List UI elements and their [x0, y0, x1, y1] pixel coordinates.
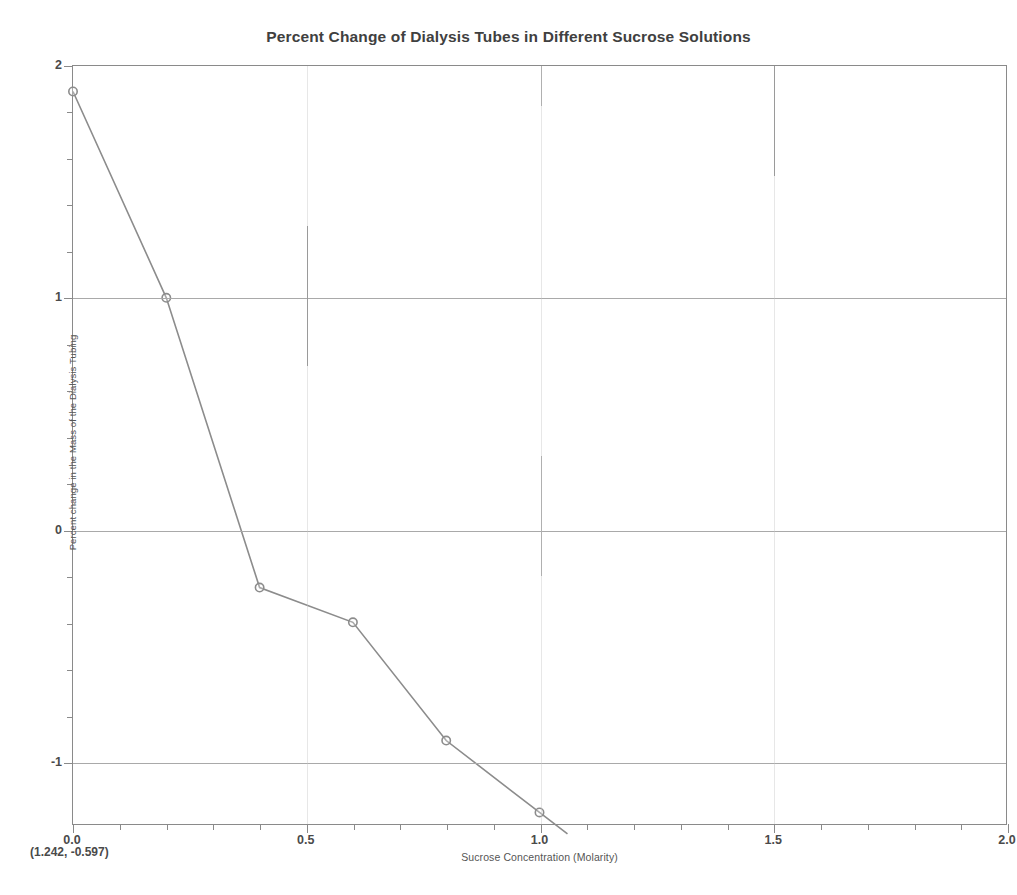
- x-axis-tick-minor: [354, 824, 355, 830]
- x-axis-tick-minor: [260, 824, 261, 830]
- x-axis-tick-minor: [915, 824, 916, 830]
- x-axis-tick-label: 1.0: [531, 833, 548, 847]
- x-axis-tick: [1008, 824, 1009, 833]
- y-axis-tick-label: 1: [40, 290, 62, 304]
- y-axis-tick-label: 0: [40, 523, 62, 537]
- x-axis-tick-minor: [213, 824, 214, 830]
- x-axis-tick-minor: [167, 824, 168, 830]
- x-axis-tick-minor: [447, 824, 448, 830]
- x-axis-tick-minor: [961, 824, 962, 830]
- x-axis-tick: [73, 824, 74, 833]
- x-axis-tick-minor: [634, 824, 635, 830]
- gridline-vertical: [307, 66, 308, 824]
- x-axis-tick-label: 0.0: [63, 833, 80, 847]
- x-axis-tick-label: 2.0: [998, 833, 1015, 847]
- chart-figure: Percent Change of Dialysis Tubes in Diff…: [0, 0, 1017, 895]
- data-point-marker[interactable]: [255, 583, 263, 591]
- gridline-horizontal: [73, 763, 1006, 764]
- gridline-vertical: [774, 66, 775, 824]
- x-axis-tick-minor: [587, 824, 588, 830]
- gridline-vertical-segment: [541, 66, 542, 106]
- gridline-vertical: [541, 66, 542, 824]
- x-axis-tick-label: 1.5: [765, 833, 782, 847]
- data-line: [73, 91, 567, 833]
- gridline-vertical-segment: [307, 226, 308, 366]
- data-point-marker[interactable]: [349, 618, 357, 626]
- gridline-horizontal: [73, 531, 1006, 532]
- x-axis-tick: [774, 824, 775, 833]
- gridline-horizontal: [73, 298, 1006, 299]
- gridline-vertical-segment: [774, 66, 775, 176]
- x-axis-tick: [307, 824, 308, 833]
- x-axis-tick-label: 0.5: [297, 833, 314, 847]
- chart-title: Percent Change of Dialysis Tubes in Diff…: [0, 28, 1017, 46]
- x-axis-tick-minor: [821, 824, 822, 830]
- y-axis-tick-label: -1: [40, 755, 62, 769]
- x-axis-tick-minor: [728, 824, 729, 830]
- plot-area: [72, 65, 1007, 825]
- x-axis-tick-minor: [494, 824, 495, 830]
- coordinate-readout: (1.242, -0.597): [30, 845, 109, 859]
- data-series-line: [73, 66, 1006, 824]
- x-axis-tick-minor: [120, 824, 121, 830]
- y-axis-label: Percent change in the Mass of the Dialys…: [67, 63, 78, 823]
- x-axis-tick-minor: [400, 824, 401, 830]
- data-point-marker[interactable]: [535, 808, 543, 816]
- x-axis-tick: [541, 824, 542, 833]
- x-axis-tick-minor: [868, 824, 869, 830]
- x-axis-tick-minor: [681, 824, 682, 830]
- data-point-marker[interactable]: [442, 736, 450, 744]
- x-axis-label: Sucrose Concentration (Molarity): [72, 851, 1007, 863]
- gridline-vertical-segment: [541, 456, 542, 576]
- y-axis-tick-label: 2: [40, 58, 62, 72]
